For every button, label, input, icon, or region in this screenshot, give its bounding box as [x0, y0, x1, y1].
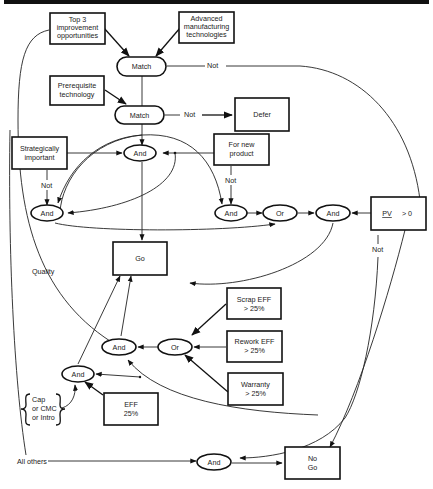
box-go: Go	[113, 242, 167, 275]
svg-text:Warranty: Warranty	[241, 380, 270, 389]
svg-text:product: product	[230, 149, 254, 158]
svg-text:Strategically: Strategically	[20, 144, 60, 153]
brace-cap-cmc-intro: Cap or CMC or Intro	[21, 394, 65, 425]
box-top3: Top 3 improvement opportunities	[50, 13, 105, 44]
svg-text:Go: Go	[308, 463, 318, 472]
svg-text:Cap: Cap	[32, 395, 45, 404]
node-and-pv: And	[316, 205, 350, 221]
svg-text:And: And	[327, 209, 340, 218]
svg-text:> 25%: > 25%	[245, 389, 266, 398]
label-not-pv: Not	[372, 245, 383, 254]
node-and-quality: And	[102, 339, 136, 355]
svg-text:And: And	[134, 149, 147, 158]
svg-text:important: important	[25, 153, 55, 162]
node-and-center: And	[124, 145, 156, 161]
svg-text:technology: technology	[60, 90, 95, 99]
svg-text:Go: Go	[135, 254, 145, 263]
label-all-others: All others	[17, 457, 47, 466]
svg-text:Prerequisite: Prerequisite	[58, 81, 96, 90]
svg-text:And: And	[113, 343, 126, 352]
svg-text:> 0: > 0	[402, 209, 412, 218]
label-not-match2: Not	[184, 110, 195, 119]
svg-text:And: And	[208, 458, 221, 467]
svg-text:Or: Or	[171, 343, 180, 352]
decision-diagram: Top 3 improvement opportunities Advanced…	[0, 0, 433, 489]
node-or-quality: Or	[158, 339, 192, 355]
node-and-left: And	[31, 205, 63, 221]
box-strategically-important: Strategically important	[12, 137, 67, 169]
svg-text:Match: Match	[132, 62, 152, 71]
svg-text:And: And	[225, 209, 238, 218]
svg-text:And: And	[41, 209, 54, 218]
box-no-go: No Go	[285, 447, 340, 479]
label-quality: Quality	[32, 267, 55, 276]
svg-text:Match: Match	[130, 111, 150, 120]
svg-text:No: No	[308, 454, 317, 463]
node-match-1: Match	[117, 57, 166, 76]
svg-text:EFF: EFF	[124, 400, 138, 409]
svg-text:> 25%: > 25%	[244, 346, 265, 355]
svg-text:or Intro: or Intro	[32, 413, 55, 422]
box-prerequisite-technology: Prerequisite technology	[50, 76, 104, 105]
node-and-cap: And	[62, 366, 94, 382]
box-scrap-eff: Scrap EFF > 25%	[227, 288, 281, 319]
svg-text:PV: PV	[382, 209, 392, 218]
svg-text:And: And	[72, 370, 85, 379]
box-warranty: Warranty > 25%	[228, 373, 283, 405]
svg-text:25%: 25%	[124, 409, 139, 418]
node-and-bottom: And	[197, 454, 231, 470]
svg-text:> 25%: > 25%	[244, 304, 265, 313]
svg-text:Rework EFF: Rework EFF	[235, 337, 276, 346]
svg-text:or CMC: or CMC	[32, 404, 57, 413]
label-not-strategic: Not	[41, 181, 52, 190]
node-and-right: And	[215, 205, 247, 221]
box-for-new-product: For new product	[214, 134, 269, 165]
svg-text:Defer: Defer	[253, 110, 271, 119]
box-rework-eff: Rework EFF > 25%	[227, 331, 282, 362]
label-not-match1: Not	[207, 61, 218, 70]
label-not-newproduct: Not	[225, 176, 236, 185]
box-pv: PV > 0	[371, 197, 426, 230]
node-or-mid: Or	[263, 205, 297, 221]
node-match-2: Match	[115, 106, 164, 124]
top-rule	[4, 0, 429, 4]
svg-text:opportunities: opportunities	[57, 31, 99, 40]
box-eff: EFF 25%	[104, 393, 158, 425]
box-advanced-technologies: Advanced manufacturing technologies	[179, 12, 234, 43]
svg-text:Or: Or	[276, 209, 285, 218]
box-defer: Defer	[235, 98, 289, 131]
svg-text:For new: For new	[229, 140, 256, 149]
svg-text:technologies: technologies	[186, 30, 227, 39]
svg-text:Scrap EFF: Scrap EFF	[237, 295, 272, 304]
